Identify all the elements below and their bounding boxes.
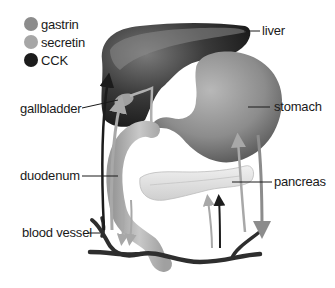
label-gallbladder: gallbladder <box>20 101 81 116</box>
gastrin-swatch-icon <box>24 17 38 31</box>
label-blood-vessel: blood vessel <box>22 225 92 240</box>
label-duodenum: duodenum <box>20 168 80 183</box>
label-stomach: stomach <box>274 99 322 114</box>
secretin-arrow-to-pancreas <box>208 200 212 248</box>
cck-arrow-to-pancreas <box>219 200 220 248</box>
legend-label-secretin: secretin <box>41 35 85 50</box>
cck-swatch-icon <box>24 53 38 67</box>
digestive-hormone-diagram: gastrin secretin CCK liver gallbladder s… <box>0 0 335 288</box>
secretin-swatch-icon <box>24 35 38 49</box>
legend-label-gastrin: gastrin <box>41 17 79 32</box>
legend-item-secretin: secretin <box>24 33 85 51</box>
legend-label-cck: CCK <box>41 53 68 68</box>
hormone-legend: gastrin secretin CCK <box>24 15 85 69</box>
legend-item-cck: CCK <box>24 51 85 69</box>
pancreas-shape <box>140 166 254 201</box>
legend-item-gastrin: gastrin <box>24 15 85 33</box>
label-pancreas: pancreas <box>274 174 326 189</box>
label-liver: liver <box>262 23 285 38</box>
